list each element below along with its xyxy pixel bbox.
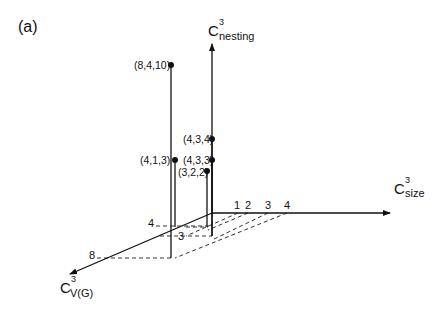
3d-scatter-chart: (a) (8,4,10) (4,1,3) (4,3,4) (4,3: [0, 0, 438, 314]
svg-text:C: C: [208, 22, 219, 39]
point-label: (4,3,4): [183, 133, 213, 145]
x-tick: 3: [265, 199, 271, 211]
size-axis-label: C 3 size: [394, 175, 425, 199]
svg-text:3: 3: [219, 17, 224, 27]
point-label: (8,4,10): [134, 59, 170, 71]
vg-axis-label: C 3 V(G): [60, 274, 93, 299]
svg-text:3: 3: [405, 175, 410, 185]
panel-label: (a): [18, 18, 38, 35]
axes: [70, 44, 390, 274]
vg-axis: [70, 213, 212, 274]
svg-text:size: size: [405, 187, 425, 199]
point-label: (4,3,3): [183, 154, 213, 166]
nesting-axis-label: C 3 nesting: [208, 17, 254, 42]
point-label: (4,1,3): [140, 154, 170, 166]
svg-text:nesting: nesting: [219, 30, 254, 42]
svg-text:V(G): V(G): [70, 287, 93, 299]
floor-projection-lines: [97, 213, 287, 258]
x-tick: 4: [284, 199, 290, 211]
point-4-1-3: [172, 157, 178, 163]
y-tick: 8: [89, 249, 95, 261]
svg-text:C: C: [394, 180, 405, 197]
x-tick: 2: [245, 199, 251, 211]
x-tick: 1: [234, 199, 240, 211]
y-tick: 3: [178, 230, 184, 242]
svg-text:3: 3: [71, 274, 76, 284]
point-label: (3,2,2): [178, 166, 208, 178]
y-tick: 4: [148, 217, 154, 229]
